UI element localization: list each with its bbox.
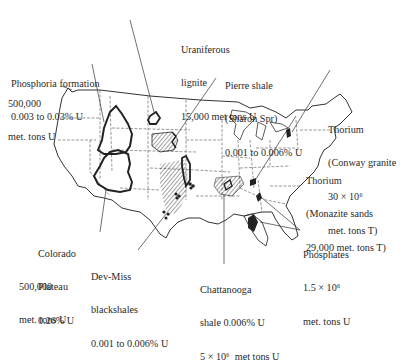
label-uraniferous-line1: Uraniferous xyxy=(181,44,256,55)
phosphate-deposit-fl xyxy=(248,214,258,232)
label-chattanooga: Chattanooga shale 0.006% U 5 × 10⁶ met t… xyxy=(200,261,279,364)
label-colorado-tonnage: 500,000 met. tons U xyxy=(19,258,66,348)
label-pierre-shale-line2: (Sharon Spr) xyxy=(225,113,302,124)
label-chattanooga-line3: 5 × 10⁶ met tons U xyxy=(200,351,279,362)
label-phosphates: Phosphates 1.5 × 10⁶ met. tons U xyxy=(303,226,350,350)
label-phosphates-line2: 1.5 × 10⁶ xyxy=(303,282,350,293)
label-thorium-monazite-line1: Thorium xyxy=(306,175,386,186)
label-colorado-tonnage-line2: met. tons U xyxy=(19,314,66,325)
label-dev-miss: Dev-Miss blackshales 0.001 to 0.006% U xyxy=(91,248,168,364)
label-phosphoria-tonnage-line2: met. tons U xyxy=(8,131,55,142)
label-dev-miss-line2: blackshales xyxy=(91,304,168,315)
label-phosphates-line1: Phosphates xyxy=(303,249,350,260)
label-dev-miss-line3: 0.001 to 0.006% U xyxy=(91,338,168,349)
label-thorium-monazite-line2: (Monazite sands xyxy=(306,208,386,219)
label-thorium-conway-line1: Thorium xyxy=(328,124,396,135)
label-phosphoria-tonnage-line1: 500,000 xyxy=(8,98,55,109)
phosphoria-region xyxy=(98,106,132,154)
uraniferous-lignite-region xyxy=(148,112,160,124)
label-phosphoria-tonnage: 500,000 met. tons U xyxy=(8,75,55,165)
devmiss-blackshales-region xyxy=(160,160,188,216)
phosphate-deposit-nc xyxy=(256,192,262,202)
label-dev-miss-line1: Dev-Miss xyxy=(91,271,168,282)
label-chattanooga-line1: Chattanooga xyxy=(200,284,279,295)
label-phosphates-line3: met. tons U xyxy=(303,316,350,327)
label-colorado-tonnage-line1: 500,000 xyxy=(19,281,66,292)
label-pierre-shale: Pierre shale (Sharon Spr) 0.001 to 0.006… xyxy=(225,57,302,181)
label-chattanooga-line2: shale 0.006% U xyxy=(200,317,279,328)
label-pierre-shale-line3: 0.001 to 0.006% U xyxy=(225,147,302,158)
label-pierre-shale-line1: Pierre shale xyxy=(225,80,302,91)
